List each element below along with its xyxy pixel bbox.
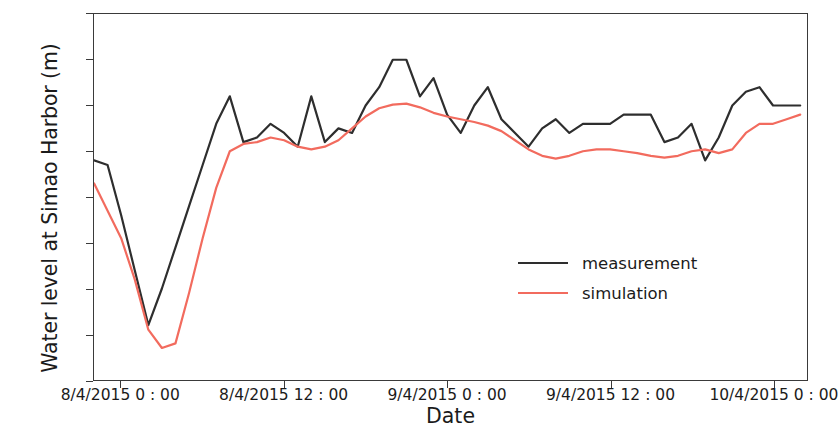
x-tick-mark	[447, 381, 448, 388]
x-tick-mark	[611, 381, 612, 388]
legend-label-simulation: simulation	[582, 284, 668, 303]
legend-item-measurement: measurement	[518, 248, 697, 278]
y-tick-mark	[86, 13, 93, 14]
x-tick-mark	[284, 381, 285, 388]
x-tick-mark	[120, 381, 121, 388]
plot-canvas	[94, 14, 807, 380]
x-tick-mark	[774, 381, 775, 388]
y-tick-mark	[86, 243, 93, 244]
y-tick-mark	[86, 289, 93, 290]
x-axis-label: Date	[93, 404, 808, 428]
y-tick-mark	[86, 59, 93, 60]
chart-legend: measurement simulation	[518, 248, 697, 308]
legend-item-simulation: simulation	[518, 278, 697, 308]
y-axis-label: Water level at Simao Harbor (m)	[38, 8, 62, 408]
x-tick-label: 10/4/2015 0 : 00	[674, 386, 840, 404]
legend-label-measurement: measurement	[582, 254, 697, 273]
y-tick-mark	[86, 381, 93, 382]
y-tick-mark	[86, 335, 93, 336]
plot-area	[93, 13, 808, 381]
legend-swatch-simulation	[518, 292, 568, 294]
y-tick-mark	[86, 151, 93, 152]
y-tick-mark	[86, 105, 93, 106]
chart-figure: Water level at Simao Harbor (m) 594.0594…	[0, 0, 840, 434]
series-line-simulation	[94, 104, 800, 348]
y-tick-mark	[86, 197, 93, 198]
legend-swatch-measurement	[518, 262, 568, 264]
